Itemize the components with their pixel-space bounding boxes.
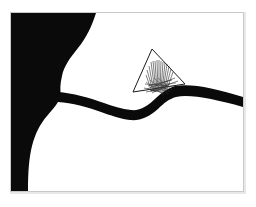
artwork-canvas (0, 0, 256, 207)
artwork-container: Abstract Black and White Composition (0, 0, 256, 207)
